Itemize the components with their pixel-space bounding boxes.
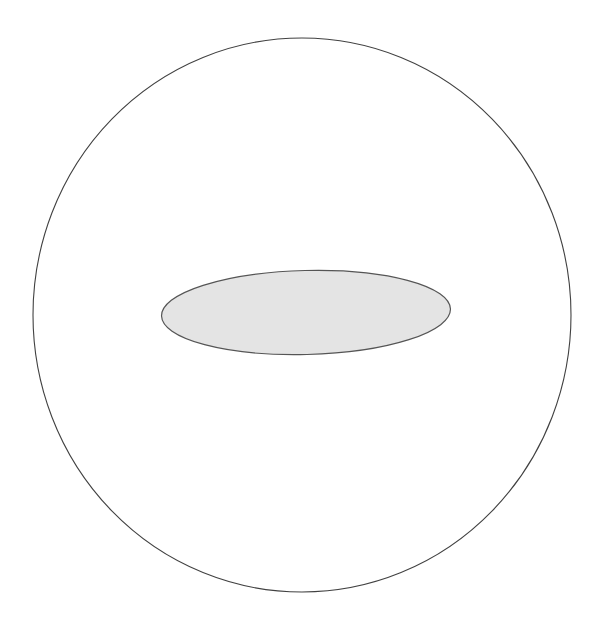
diagram-canvas — [0, 0, 605, 628]
figure-svg — [0, 0, 605, 628]
